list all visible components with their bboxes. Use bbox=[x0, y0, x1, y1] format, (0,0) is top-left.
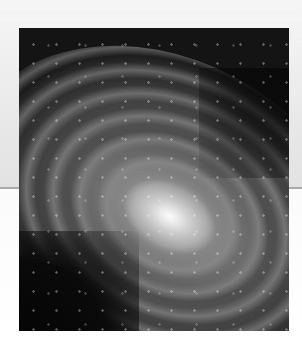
star-field bbox=[19, 28, 289, 331]
galaxy-photo bbox=[19, 28, 289, 331]
